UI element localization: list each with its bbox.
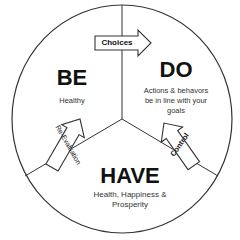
desc-line: be in line with your — [130, 96, 222, 106]
section-desc-do: Actions & behavors be in line with your … — [130, 86, 222, 116]
section-desc-have: Health, Happiness & Prosperity — [80, 190, 180, 210]
arrow-label-choices: Choices — [95, 37, 139, 49]
section-desc-be: Healthy — [44, 96, 100, 106]
desc-line: goals — [130, 106, 222, 116]
section-title-be: BE — [48, 66, 96, 90]
desc-line: Prosperity — [80, 200, 180, 210]
section-title-do: DO — [146, 58, 206, 82]
desc-line: Actions & behavors — [130, 86, 222, 96]
desc-line: Health, Happiness & — [80, 190, 180, 200]
section-title-have: HAVE — [90, 164, 170, 188]
